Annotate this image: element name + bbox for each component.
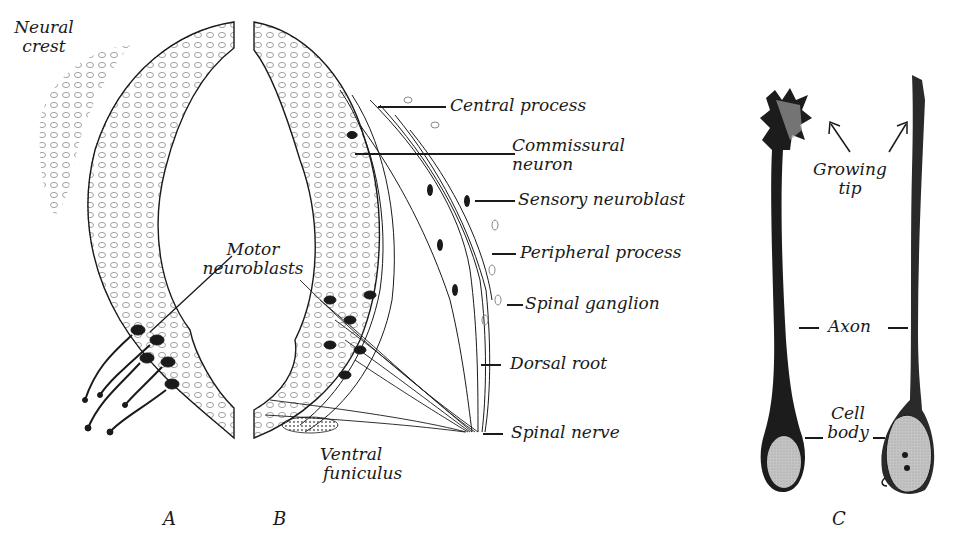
panel-letter-a: A — [163, 508, 176, 529]
label-axon: Axon — [828, 317, 871, 336]
leader-sensory-neuroblast — [475, 200, 515, 202]
leader-dorsal-root — [481, 364, 501, 366]
label-motor-neuroblasts: Motor neuroblasts — [198, 240, 308, 278]
label-commissural-line1: Commissural — [512, 136, 625, 155]
leader-central-process — [378, 106, 446, 108]
illustration — [0, 0, 953, 544]
label-sensory-neuroblast: Sensory neuroblast — [518, 190, 685, 209]
label-neural-crest-line2: crest — [12, 37, 76, 56]
leader-peripheral-process — [492, 253, 516, 255]
neural-tube-b — [254, 22, 394, 438]
label-ventral-line2: funiculus — [320, 464, 402, 483]
leader-cell-body-left — [805, 437, 823, 439]
label-commissural-neuron: Commissural neuron — [512, 136, 625, 174]
label-commissural-line2: neuron — [512, 155, 625, 174]
neuron-c-right — [881, 75, 934, 494]
label-motor-line2: neuroblasts — [198, 259, 308, 278]
label-ventral-funiculus: Ventral funiculus — [320, 445, 402, 483]
label-neural-crest-line1: Neural — [12, 18, 76, 37]
label-cell-line2: body — [818, 423, 878, 442]
dorsal-root-and-ganglion — [360, 100, 492, 432]
label-spinal-ganglion: Spinal ganglion — [525, 294, 660, 313]
label-ventral-line1: Ventral — [320, 445, 402, 464]
leader-axon-left — [799, 327, 819, 329]
leader-commissural-neuron — [355, 153, 515, 155]
label-dorsal-root: Dorsal root — [510, 354, 607, 373]
label-motor-line1: Motor — [198, 240, 308, 259]
neuron-c-left — [760, 88, 812, 492]
label-central-process: Central process — [450, 96, 586, 115]
label-spinal-nerve: Spinal nerve — [511, 423, 620, 442]
panel-letter-b: B — [273, 508, 286, 529]
growing-tip-arrows — [829, 122, 907, 152]
label-growing-line1: Growing — [805, 160, 895, 179]
label-peripheral-process: Peripheral process — [520, 243, 682, 262]
label-cell-line1: Cell — [818, 404, 878, 423]
label-growing-tip: Growing tip — [805, 160, 895, 198]
leader-cell-body-right — [873, 437, 885, 439]
label-cell-body: Cell body — [818, 404, 878, 442]
leader-spinal-ganglion — [507, 304, 523, 306]
neural-tube-a — [88, 22, 234, 438]
panel-letter-c: C — [832, 508, 846, 529]
leader-axon-right — [888, 327, 908, 329]
label-growing-line2: tip — [805, 179, 895, 198]
leader-spinal-nerve — [483, 433, 503, 435]
label-neural-crest: Neural crest — [12, 18, 76, 56]
